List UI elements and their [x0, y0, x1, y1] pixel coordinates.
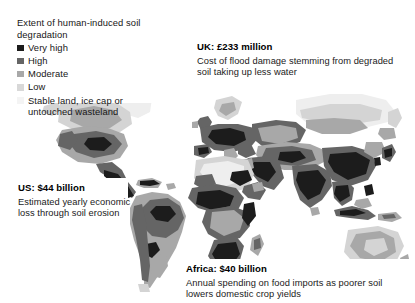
callout-uk: UK: £233 million Cost of flood damage st… [197, 41, 397, 78]
legend-swatch-low [17, 84, 24, 91]
map-legend: Extent of human-induced soil degradation… [17, 17, 189, 118]
callout-africa-title: Africa: $40 billion [186, 263, 408, 275]
legend-item-moderate: Moderate [17, 68, 189, 80]
callout-us-title: US: $44 billion [18, 182, 138, 194]
legend-item-very-high: Very high [17, 42, 189, 54]
callout-uk-body: Cost of flood damage stemming from degra… [197, 56, 397, 79]
legend-item-stable: Stable land, ice cap or untouched wastel… [17, 95, 189, 118]
legend-swatch-stable [17, 97, 24, 104]
callout-us-body: Estimated yearly economic loss through s… [18, 197, 138, 220]
legend-swatch-moderate [17, 71, 24, 78]
legend-label-very-high: Very high [28, 42, 168, 54]
legend-item-high: High [17, 55, 189, 67]
legend-swatch-high [17, 58, 24, 65]
legend-title: Extent of human-induced soil degradation [17, 17, 167, 40]
legend-item-low: Low [17, 81, 189, 93]
callout-uk-title: UK: £233 million [197, 41, 397, 53]
legend-swatch-very-high [17, 45, 24, 52]
legend-label-high: High [28, 55, 168, 67]
callout-africa: Africa: $40 billion Annual spending on f… [186, 263, 408, 300]
callout-africa-body: Annual spending on food imports as poore… [186, 278, 408, 301]
legend-label-low: Low [28, 81, 168, 93]
legend-label-moderate: Moderate [28, 68, 168, 80]
callout-us: US: $44 billion Estimated yearly economi… [18, 182, 138, 219]
legend-label-stable: Stable land, ice cap or untouched wastel… [28, 95, 168, 118]
